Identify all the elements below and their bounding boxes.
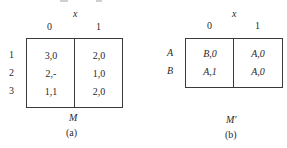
input-variable-label: x: [73, 9, 77, 19]
table-cell: 2,0: [75, 51, 123, 61]
table-cell: 1,0: [75, 69, 123, 79]
table-cell: 3,0: [27, 51, 75, 61]
cropped-text-fragment: [60, 0, 68, 2]
column-header: 1: [255, 21, 260, 31]
state-table: 3,0 2,0 2,- 1,0 1,1 2,0: [26, 38, 123, 108]
column-header: 1: [96, 22, 101, 32]
input-variable-label: x: [232, 9, 236, 19]
column-divider: [233, 39, 234, 87]
state-table: B,0 A,0 A,1 A,0: [185, 38, 283, 88]
row-state-label: 3: [9, 86, 14, 96]
table-cell: 2,-: [27, 69, 75, 79]
table-cell: 2,0: [75, 87, 123, 97]
machine-label: M′: [226, 115, 237, 125]
figure-caption: (b): [225, 130, 237, 140]
row-state-label: 2: [9, 68, 14, 78]
column-header: 0: [207, 21, 212, 31]
table-cell: A,1: [186, 67, 234, 77]
figure-caption: (a): [66, 128, 77, 138]
column-header: 0: [47, 22, 52, 32]
row-state-label: 1: [9, 50, 14, 60]
table-cell: B,0: [186, 49, 234, 59]
machine-label: M: [69, 113, 77, 123]
row-state-label: B: [167, 66, 173, 76]
row-state-label: A: [167, 48, 173, 58]
table-cell: 1,1: [27, 87, 75, 97]
cropped-text-fragment: [96, 0, 102, 2]
table-cell: A,0: [234, 49, 282, 59]
table-cell: A,0: [234, 67, 282, 77]
